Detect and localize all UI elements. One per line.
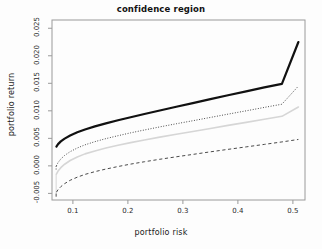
series-upper-confidence-bound [56,42,298,147]
x-tick-label: 0.5 [278,207,308,215]
x-tick-label: 0.2 [113,207,143,215]
series-lower-dashed-bound [56,139,298,192]
x-tick-label: 0.1 [58,207,88,215]
plot-canvas [0,0,322,249]
series-mean-efficient-frontier [56,107,298,174]
x-tick-label: 0.3 [168,207,198,215]
chart-figure: confidence region portfolio risk portfol… [0,0,322,249]
x-tick-label: 0.4 [223,207,253,215]
plot-box [52,20,305,200]
y-tick-label: 0.025 [33,10,41,44]
